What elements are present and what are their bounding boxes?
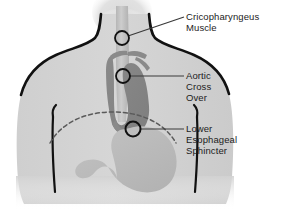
- anatomy-diagram: Cricopharyngeus Muscle Aortic Cross Over…: [0, 0, 300, 212]
- label-cricopharyngeus-muscle: Cricopharyngeus Muscle: [186, 11, 259, 33]
- label-lower-esophageal-sphincter: Lower Esophageal Sphincter: [186, 123, 237, 157]
- label-aortic-cross-over: Aortic Cross Over: [186, 70, 211, 104]
